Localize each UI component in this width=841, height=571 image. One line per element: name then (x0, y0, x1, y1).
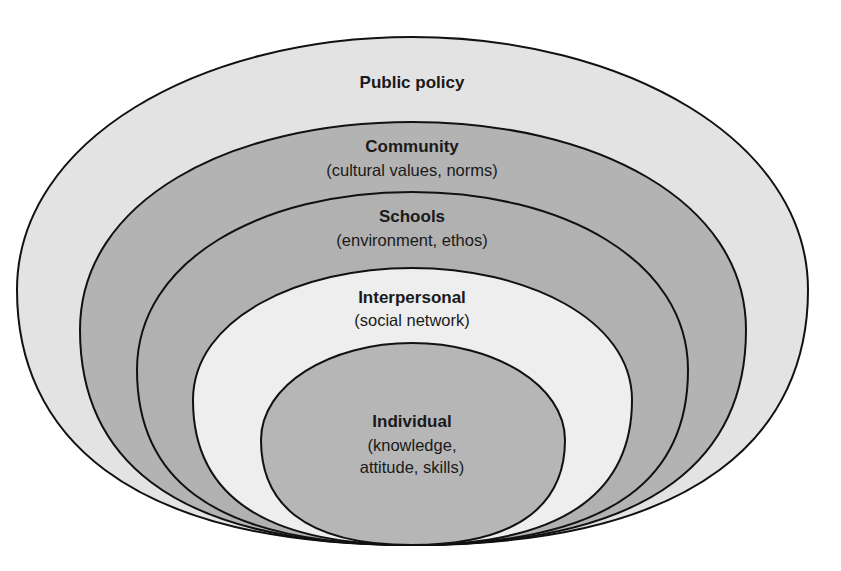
label-public-policy: Public policy (360, 73, 465, 92)
label-individual: Individual (372, 412, 451, 431)
sublabel-individual-line2: attitude, skills) (360, 458, 465, 476)
sublabel-individual-line1: (knowledge, (368, 436, 457, 454)
sublabel-community: (cultural values, norms) (326, 161, 497, 179)
sublabel-interpersonal: (social network) (354, 311, 470, 329)
nested-ellipse-diagram: Public policy Community (cultural values… (0, 0, 841, 571)
label-schools: Schools (379, 207, 445, 226)
label-community: Community (365, 137, 459, 156)
sublabel-schools: (environment, ethos) (336, 231, 487, 249)
label-interpersonal: Interpersonal (358, 288, 466, 307)
